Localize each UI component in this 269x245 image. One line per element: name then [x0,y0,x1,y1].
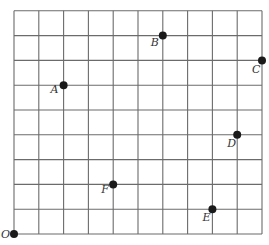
point-label: F [100,183,109,196]
point-marker [10,230,18,238]
point-label: E [201,211,210,224]
coordinate-grid-diagram: OABCDEF [0,0,269,245]
point-c: C [252,56,266,76]
point-marker [159,32,167,40]
grid-lines [14,11,262,234]
point-marker [60,81,68,89]
point-label: B [150,36,159,49]
point-a: A [50,81,68,96]
point-label: C [252,63,261,76]
point-label: D [226,137,236,150]
point-b: B [150,32,167,49]
point-o: O [1,228,18,241]
point-e: E [201,205,216,224]
point-marker [109,180,117,188]
point-f: F [100,180,117,196]
point-label: O [1,228,10,241]
point-label: A [50,83,59,96]
point-d: D [226,131,241,150]
